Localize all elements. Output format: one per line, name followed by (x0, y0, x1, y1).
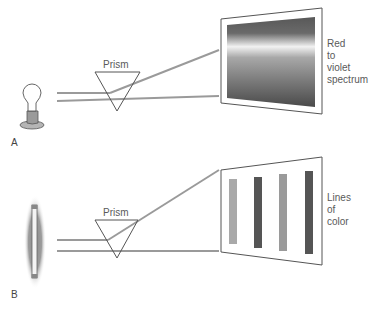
spectral-line (229, 179, 237, 244)
spectral-line (254, 177, 262, 248)
spectral-line (279, 174, 287, 251)
line-spectrum-screen (221, 157, 322, 265)
fluorescent-tube-icon (24, 195, 46, 289)
spectrum-caption: Red to violet spectrum (327, 38, 368, 85)
prism-label: Prism (103, 207, 129, 218)
spectrum-screen (221, 8, 322, 114)
panel-a-label: A (11, 137, 18, 148)
spectral-line (305, 171, 313, 254)
panel-a: Prism Red to violet spectrum A (11, 8, 368, 148)
light-bulb-icon (20, 84, 44, 129)
prism-icon (95, 72, 140, 111)
panel-b: Prism Lines of color B (11, 157, 354, 300)
lines-caption: Lines of color (327, 192, 354, 227)
light-beams (57, 170, 219, 251)
panel-b-label: B (11, 289, 18, 300)
prism-label: Prism (103, 59, 129, 70)
